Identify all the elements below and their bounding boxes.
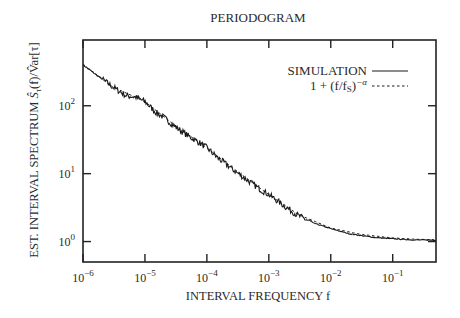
y-axis-label: EST. INTERVAL SPECTRUM Ŝτ(f)/V̂ar[τ]	[27, 42, 43, 257]
plot-frame	[83, 40, 436, 262]
series-model-dashed-line	[83, 65, 436, 240]
y-axis-label-text: EST. INTERVAL SPECTRUM	[27, 98, 41, 257]
x-tick-label: 10−3	[258, 268, 280, 285]
legend: SIMULATION 1 + (f/fS)−α	[288, 63, 408, 94]
x-axis-label: INTERVAL FREQUENCY f	[186, 289, 331, 303]
chart-title: PERIODOGRAM	[210, 10, 306, 25]
y-tick-label: 100	[59, 232, 76, 249]
x-tick-label: 10−2	[320, 268, 342, 285]
svg-text:EST. INTERVAL SPECTRUM Ŝτ(f)/V: EST. INTERVAL SPECTRUM Ŝτ(f)/V̂ar[τ]	[27, 42, 43, 257]
legend-label-model: 1 + (f/fS)−α	[310, 77, 367, 94]
x-tick-label: 10−5	[134, 268, 156, 285]
y-tick-label: 101	[59, 164, 76, 181]
periodogram-chart: PERIODOGRAM 10−610−510−410−310−210−1 100…	[0, 0, 460, 318]
x-tick-label: 10−4	[196, 268, 218, 285]
legend-label-simulation: SIMULATION	[288, 63, 368, 78]
x-tick-label: 10−1	[382, 268, 404, 285]
series-simulation-line	[83, 65, 436, 241]
x-tick-label: 10−6	[72, 268, 94, 285]
y-tick-label: 102	[59, 96, 76, 113]
y-axis-ticks: 100101102	[59, 96, 437, 249]
plot-area	[83, 65, 436, 241]
